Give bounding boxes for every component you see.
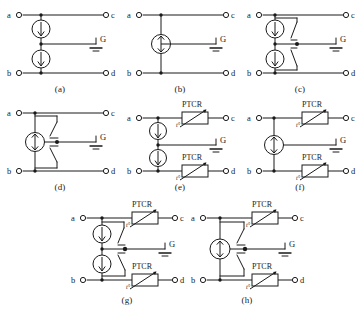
- panel-caption-b: (b): [120, 84, 240, 94]
- gas-discharge-tube-lower: [150, 150, 167, 167]
- label-terminal-c: c: [111, 10, 115, 20]
- circuit-panel-a: a b c d G (a): [0, 0, 120, 100]
- terminal-node-c: [172, 215, 177, 220]
- label-ptcr-lower: PTCR: [132, 262, 153, 271]
- switch-blade-upper: [118, 228, 124, 243]
- ptcr-upper: [180, 110, 208, 128]
- label-terminal-b: b: [127, 68, 131, 78]
- terminal-node-b: [256, 70, 261, 75]
- junction-dot-ground: [123, 247, 127, 251]
- label-terminal-c: c: [351, 113, 355, 123]
- terminal-node-a: [200, 215, 205, 220]
- gas-discharge-tube-upper: [32, 20, 50, 38]
- label-ground: G: [100, 132, 106, 142]
- junction-dot-bottom: [156, 169, 159, 172]
- label-temp-upper: t°: [246, 222, 251, 228]
- label-terminal-c: c: [231, 10, 235, 20]
- junction-dot-ground: [295, 42, 299, 46]
- terminal-node-c: [343, 115, 348, 120]
- terminal-node-a: [16, 110, 21, 115]
- label-terminal-a: a: [71, 213, 75, 223]
- panel-caption-d: (d): [0, 182, 120, 192]
- junction-dot-mid: [273, 42, 276, 45]
- label-temp-lower: t°: [246, 284, 251, 290]
- label-terminal-c: c: [111, 108, 115, 118]
- label-ptcr-upper: PTCR: [132, 200, 153, 209]
- label-terminal-b: b: [71, 275, 75, 285]
- terminal-node-a: [136, 12, 141, 17]
- terminal-node-d: [172, 277, 177, 282]
- label-ptcr-upper: PTCR: [182, 100, 203, 109]
- panel-caption-f: (f): [240, 182, 360, 192]
- label-ptcr-upper: PTCR: [302, 100, 323, 109]
- label-ground: G: [100, 34, 106, 44]
- label-ptcr-upper: PTCR: [252, 200, 273, 209]
- switch-blade-lower: [237, 255, 244, 269]
- junction-dot-bottom: [159, 71, 162, 74]
- terminal-node-b: [16, 168, 21, 173]
- junction-dot-mid: [100, 247, 103, 250]
- junction-dot-top: [273, 13, 276, 16]
- terminal-node-d: [343, 168, 348, 173]
- junction-dot-top: [159, 13, 162, 16]
- label-terminal-d: d: [231, 166, 236, 176]
- label-terminal-b: b: [191, 275, 195, 285]
- label-terminal-b: b: [7, 166, 11, 176]
- circuit-figure: a b c d G (a): [0, 0, 360, 324]
- label-terminal-d: d: [300, 275, 305, 285]
- terminal-node-a: [16, 12, 21, 17]
- label-terminal-d: d: [351, 68, 356, 78]
- circuit-panel-d: a b c d G (d): [0, 98, 120, 198]
- switch-blade-upper: [237, 229, 244, 243]
- gas-discharge-tube-lower: [93, 255, 111, 273]
- terminal-node-b: [16, 70, 21, 75]
- label-terminal-a: a: [247, 113, 251, 123]
- terminal-node-d: [292, 277, 297, 282]
- label-terminal-b: b: [247, 166, 251, 176]
- label-terminal-b: b: [127, 166, 131, 176]
- gas-discharge-tube-3terminal: [26, 133, 45, 152]
- junction-dot-bottom: [100, 278, 103, 281]
- label-terminal-c: c: [351, 10, 355, 20]
- terminal-node-a: [256, 12, 261, 17]
- ptcr-lower: [180, 163, 208, 181]
- label-ground: G: [220, 135, 226, 145]
- terminal-node-b: [136, 70, 141, 75]
- terminal-node-b: [200, 277, 205, 282]
- label-terminal-c: c: [231, 113, 235, 123]
- label-terminal-d: d: [231, 68, 236, 78]
- junction-dot-top: [100, 216, 103, 219]
- label-terminal-d: d: [351, 166, 356, 176]
- terminal-node-b: [136, 168, 141, 173]
- switch-blade-upper: [291, 22, 297, 38]
- terminal-node-a: [136, 115, 141, 120]
- terminal-node-c: [103, 12, 108, 17]
- label-ground: G: [340, 34, 346, 44]
- junction-dot-top: [218, 216, 221, 219]
- terminal-node-c: [343, 12, 348, 17]
- switch-blade-lower: [50, 148, 57, 162]
- gas-discharge-tube-upper: [150, 123, 167, 140]
- junction-dot-bottom: [272, 169, 275, 172]
- junction-dot-top: [156, 116, 159, 119]
- label-temp-lower: t°: [126, 284, 131, 290]
- label-ground: G: [340, 135, 346, 145]
- gas-discharge-tube-upper: [93, 225, 111, 243]
- label-ground: G: [289, 239, 295, 249]
- terminal-node-b: [256, 168, 261, 173]
- label-ptcr-lower: PTCR: [302, 153, 323, 162]
- junction-dot-ground: [55, 140, 59, 144]
- ptcr-lower: [250, 272, 278, 290]
- junction-dot-bottom: [273, 71, 276, 74]
- panel-caption-h: (h): [182, 295, 312, 305]
- junction-dot-top: [39, 13, 42, 16]
- label-temp-upper: t°: [296, 122, 301, 128]
- panel-caption-e: (e): [120, 182, 240, 192]
- ptcr-upper: [300, 110, 328, 128]
- switch-blade-lower: [118, 255, 125, 270]
- terminal-node-c: [223, 115, 228, 120]
- label-terminal-b: b: [247, 68, 251, 78]
- panel-caption-a: (a): [0, 84, 120, 94]
- switch-blade-upper: [50, 122, 57, 136]
- label-terminal-a: a: [127, 113, 131, 123]
